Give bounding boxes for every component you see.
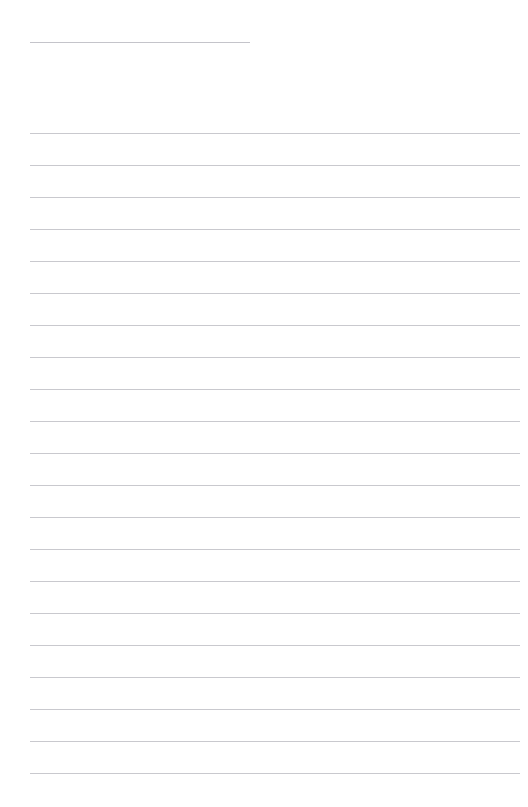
writing-area[interactable]	[0, 0, 528, 807]
rule-line	[30, 389, 520, 390]
rule-line	[30, 517, 520, 518]
rule-line	[30, 133, 520, 134]
rule-line	[30, 165, 520, 166]
rule-line	[30, 773, 520, 774]
rule-line	[30, 485, 520, 486]
rule-line	[30, 549, 520, 550]
rule-line	[30, 325, 520, 326]
rule-line	[30, 613, 520, 614]
rule-line	[30, 357, 520, 358]
page-sheet	[0, 0, 528, 807]
rule-line	[30, 293, 520, 294]
rule-line	[30, 677, 520, 678]
rule-line	[30, 645, 520, 646]
rule-line	[30, 197, 520, 198]
rule-line	[30, 261, 520, 262]
rule-line	[30, 421, 520, 422]
rule-line	[30, 229, 520, 230]
notebook-page	[0, 0, 528, 807]
rule-line	[30, 709, 520, 710]
rule-line	[30, 453, 520, 454]
rule-line	[30, 741, 520, 742]
rule-line	[30, 581, 520, 582]
